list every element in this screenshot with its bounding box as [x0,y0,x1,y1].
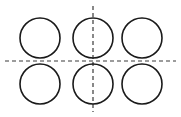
drawing-canvas [0,0,181,117]
technical-drawing [0,0,181,117]
